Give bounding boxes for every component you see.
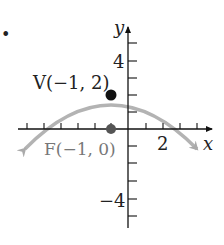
y-tick-label-neg4: −4	[99, 190, 126, 211]
x-tick-label-2: 2	[157, 133, 168, 154]
focus-label: F(−1, 0)	[44, 139, 116, 159]
vertex-label: V(−1, 2)	[32, 72, 109, 93]
focus-point	[106, 124, 116, 134]
x-axis-label: x	[203, 133, 213, 154]
y-tick-label-4: 4	[113, 51, 124, 72]
y-axis-label: y	[113, 17, 125, 38]
bullet-marker: •	[1, 25, 10, 44]
parabola-graph: • y x 4 −4 2 V(−1, 2) F(−1, 0)	[0, 0, 224, 245]
